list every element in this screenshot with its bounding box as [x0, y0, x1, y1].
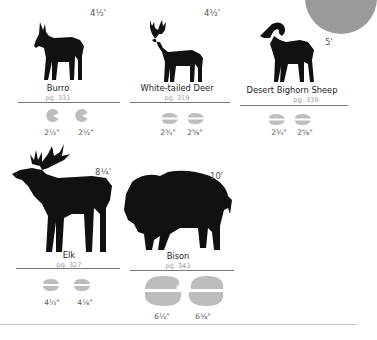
cloven-track-icon	[160, 109, 178, 128]
track-size-hind: 2⅝"	[187, 128, 203, 137]
page-reference[interactable]: pg. 339	[294, 96, 319, 104]
track-size-front: 4¼"	[44, 298, 60, 307]
height-label: 10'	[210, 171, 223, 181]
cloven-track-icon	[187, 275, 225, 311]
burro-silhouette-icon	[34, 22, 86, 80]
animal-name: White-tailed Deer	[140, 83, 213, 93]
divider	[130, 102, 230, 103]
track-size-hind: 6⅜"	[195, 312, 211, 321]
height-label: 4½'	[90, 8, 106, 18]
animal-name: Elk	[63, 250, 75, 260]
divider	[130, 270, 234, 271]
hoof-track-icon	[45, 107, 59, 126]
height-label: 8¼'	[95, 167, 111, 177]
divider	[240, 105, 348, 106]
hoof-track-icon	[74, 107, 88, 126]
page-bottom-divider	[0, 324, 357, 325]
track-size-hind: 4⅛"	[77, 298, 93, 307]
track-size-front: 6½"	[154, 312, 170, 321]
animal-name: Burro	[47, 83, 70, 93]
cloven-track-icon	[145, 275, 183, 311]
page-reference[interactable]: pg. 331	[46, 94, 71, 102]
cloven-track-icon	[42, 276, 60, 295]
divider	[16, 268, 120, 269]
track-size-hind: 2⅝"	[297, 128, 313, 137]
track-size-hind: 2½"	[78, 128, 94, 137]
height-label: 5'	[325, 37, 333, 47]
track-size-front: 2¾"	[160, 128, 176, 137]
cloven-track-icon	[293, 110, 311, 129]
track-size-front: 2½"	[44, 128, 60, 137]
animal-name: Bison	[167, 251, 190, 261]
page-reference[interactable]: pg. 343	[166, 262, 191, 270]
cloven-track-icon	[73, 276, 91, 295]
bighorn-sheep-silhouette-icon	[260, 22, 318, 82]
deer-silhouette-icon	[148, 18, 206, 82]
height-label: 4½'	[204, 8, 220, 18]
cloven-track-icon	[186, 109, 204, 128]
track-size-front: 2¾"	[271, 128, 287, 137]
cloven-track-icon	[267, 110, 285, 129]
bison-silhouette-icon	[124, 170, 234, 250]
animal-name: Desert Bighorn Sheep	[247, 85, 338, 95]
divider	[18, 102, 120, 103]
elk-silhouette-icon	[12, 142, 112, 252]
page-reference[interactable]: pg. 319	[165, 94, 190, 102]
